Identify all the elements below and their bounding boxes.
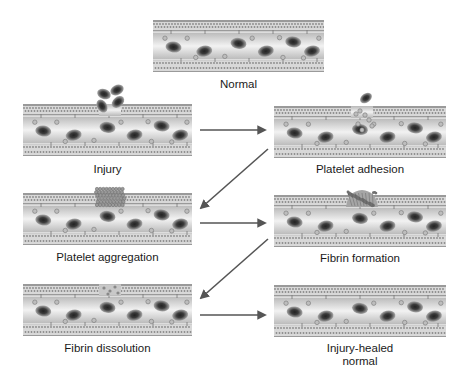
normal-vessel	[153, 0, 324, 72]
arrow-platelet-adhesion-to-platelet-aggregation	[201, 149, 268, 208]
label-injury-healed-normal: Injury-healed normal	[274, 342, 446, 368]
injury-vessel	[23, 82, 192, 156]
platelet-adhesion-vessel	[274, 84, 446, 158]
injury-healed-normal-vessel	[274, 263, 446, 337]
label-fibrin-dissolution: Fibrin dissolution	[23, 342, 192, 355]
arrow-fibrin-formation-to-fibrin-dissolution	[201, 239, 268, 298]
platelet-aggregation-vessel	[23, 171, 192, 245]
fibrin-formation-vessel	[274, 173, 446, 247]
fibrin-dissolution-vessel	[23, 262, 192, 336]
